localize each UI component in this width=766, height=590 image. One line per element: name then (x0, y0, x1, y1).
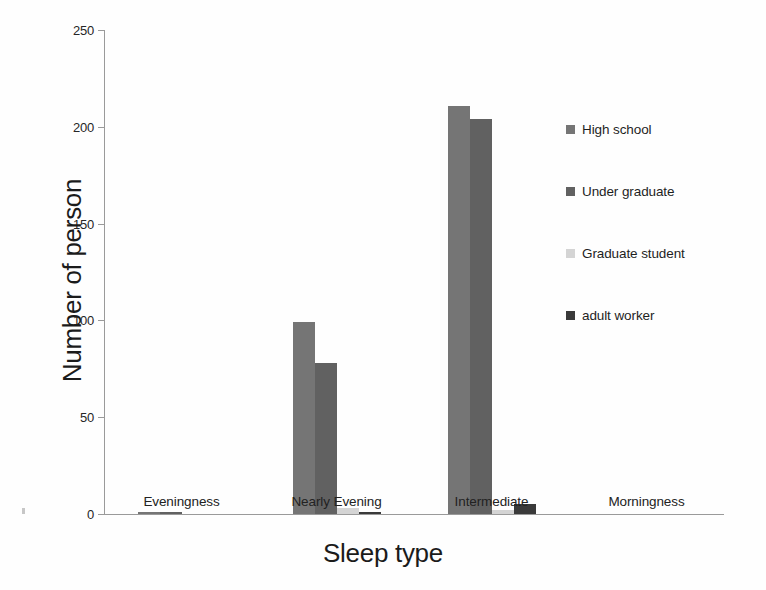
x-axis-category-label: Morningness (567, 494, 727, 509)
legend-item-label: adult worker (582, 308, 654, 323)
chart-legend: High schoolUnder graduateGraduate studen… (566, 98, 756, 346)
legend-item-label: Graduate student (582, 246, 685, 261)
bar[interactable] (293, 322, 315, 514)
bar-group (138, 30, 226, 514)
bar[interactable] (448, 106, 470, 514)
y-axis-title: Number of person (57, 146, 88, 416)
legend-swatch-icon (566, 187, 575, 196)
legend-swatch-icon (566, 249, 575, 258)
legend-item[interactable]: Under graduate (566, 160, 756, 222)
plot-area (104, 30, 540, 514)
bar-chart-figure: 050100150200250 Number of person Evening… (0, 0, 766, 590)
legend-item-label: Under graduate (582, 184, 674, 199)
legend-item[interactable]: Graduate student (566, 222, 756, 284)
bar-group (293, 30, 381, 514)
bar[interactable] (359, 512, 381, 514)
y-axis-tick-label: 200 (48, 119, 94, 134)
x-axis-line (104, 514, 724, 515)
scan-artifact-text (0, 572, 766, 590)
legend-swatch-icon (566, 311, 575, 320)
bar[interactable] (492, 510, 514, 514)
legend-item[interactable]: High school (566, 98, 756, 160)
x-axis-category-label: Eveningness (102, 494, 262, 509)
legend-item[interactable]: adult worker (566, 284, 756, 346)
legend-swatch-icon (566, 125, 575, 134)
x-axis-category-label: Nearly Evening (257, 494, 417, 509)
y-axis-tick-mark (98, 514, 105, 515)
x-axis-title: Sleep type (0, 538, 766, 569)
bar-group-bars (138, 30, 226, 514)
bar-group-bars (293, 30, 381, 514)
y-axis-tick-label: 250 (48, 23, 94, 38)
bar[interactable] (160, 512, 182, 514)
y-axis-tick-label: 0 (48, 507, 94, 522)
bar-group-bars (448, 30, 536, 514)
x-axis-category-label: Intermediate (412, 494, 572, 509)
scan-artifact-tick (22, 508, 25, 514)
bar[interactable] (337, 508, 359, 514)
bar[interactable] (315, 363, 337, 514)
legend-item-label: High school (582, 122, 651, 137)
bar[interactable] (470, 119, 492, 514)
bar[interactable] (138, 512, 160, 514)
bar-group (448, 30, 536, 514)
